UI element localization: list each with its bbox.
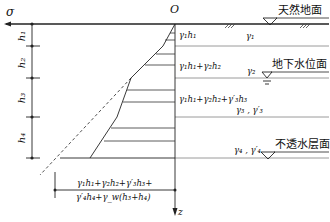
sigma-label: σ (6, 6, 14, 18)
h3-label: h₃ (17, 93, 27, 103)
bottom-stress-line2: γ′₄h₄+γ_w(h₃+h₄) (76, 193, 151, 202)
gamma3-label: γ₃ , γ′₃ (236, 106, 263, 115)
water-table-label: 地下水位面 (272, 59, 327, 70)
sigma-arrow-icon (4, 22, 11, 27)
h4-label: h₄ (17, 133, 27, 143)
h2-label: h₂ (17, 58, 27, 68)
h1-label: h₁ (17, 31, 27, 41)
gamma4-label: γ₄ , γ′₄ (234, 146, 261, 155)
bottom-stress-line1: γ₁h₁+γ₂h₂+γ′₃h₃+ (77, 179, 152, 188)
stress-area-hatching (104, 33, 175, 141)
origin-label: O (170, 4, 179, 15)
ground-surface-label: 天然地面 (278, 5, 322, 16)
z-label: z (178, 208, 183, 217)
depth-ticks (26, 46, 40, 158)
gamma1-label: γ₁ (246, 32, 255, 41)
bracket-dot-right (174, 189, 177, 192)
bracket-dot (54, 189, 57, 192)
stress-profile-line (90, 24, 175, 158)
z-arrow-icon (173, 208, 178, 216)
stress-label-2: γ₁h₁+γ₂h₂ (179, 62, 221, 71)
stress-label-3: γ₁h₁+γ₂h₂+γ′₃h₃ (179, 95, 247, 104)
impermeable-surface-label: 不透水层面 (275, 139, 330, 150)
total-stress-dashed-line (40, 78, 131, 175)
stress-label-1: γ₁h₁ (179, 31, 196, 40)
gamma2-label: γ₂ (247, 67, 256, 76)
